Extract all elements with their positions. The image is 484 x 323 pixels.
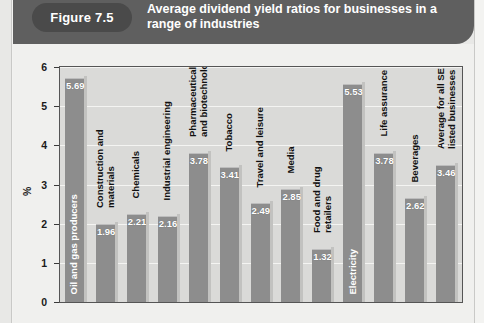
bar-group[interactable]: 5.53Electricity	[343, 67, 362, 302]
plot-inner: 5.69Oil and gas producers1.96Constructio…	[60, 67, 462, 302]
bar-category-label-line: retailers	[322, 167, 333, 234]
bar-category-label-line: Industrial engineering	[162, 101, 173, 200]
bar-value-label: 5.53	[344, 86, 363, 97]
bar-category-label-line: and biotechnology	[199, 67, 210, 137]
bar[interactable]	[189, 153, 208, 302]
bar-group[interactable]: 3.46Average for all SElisted businesses	[436, 67, 455, 302]
bar-category-label-line: Beverages	[409, 134, 420, 182]
bar[interactable]	[220, 167, 239, 302]
figure-number-badge: Figure 7.5	[32, 3, 132, 32]
bar-3d-edge	[424, 196, 427, 302]
bar-3d-edge	[455, 163, 458, 302]
bar[interactable]	[251, 203, 270, 302]
bar-group[interactable]: 1.96Construction andmaterials	[96, 67, 115, 302]
bar-category-label: Average for all SElisted businesses	[436, 69, 457, 150]
bar-group[interactable]: 2.16Industrial engineering	[158, 67, 177, 302]
bar-category-label: Beverages	[409, 134, 420, 182]
bar-value-label: 2.49	[252, 205, 271, 216]
figure-title: Average dividend yield ratios for busine…	[147, 2, 467, 32]
bar-category-label-line: Travel and leisure	[255, 107, 266, 187]
bar-3d-edge	[84, 76, 87, 302]
bar-group[interactable]: 3.41Tobacco	[220, 67, 239, 302]
y-axis-tick-label: 4	[13, 139, 47, 151]
bar-3d-edge	[300, 187, 303, 302]
bar-3d-edge	[270, 201, 273, 302]
bar-category-label: Travel and leisure	[255, 107, 266, 187]
bar-category-label-line: Average for all SE	[436, 69, 447, 150]
bar-group[interactable]: 2.85Media	[281, 67, 300, 302]
bar-category-label-line: Electricity	[347, 249, 358, 294]
bar-value-label: 3.78	[190, 155, 209, 166]
chart-card: % 0123456 5.69Oil and gas producers1.96C…	[13, 44, 474, 323]
bar-3d-edge	[393, 151, 396, 302]
bar-group[interactable]: 2.21Chemicals	[127, 67, 146, 302]
bar-category-label-line: listed businesses	[446, 69, 457, 150]
page-right-edge-line	[474, 0, 475, 323]
bar[interactable]	[436, 165, 455, 302]
bar-value-label: 1.96	[97, 226, 116, 237]
bar-value-label: 3.41	[221, 169, 240, 180]
bar-category-label: Tobacco	[224, 113, 235, 151]
y-axis-tick-label: 6	[13, 61, 47, 73]
bar-value-label: 2.21	[128, 216, 147, 227]
bar-3d-edge	[362, 82, 365, 302]
bar-category-label-line: Oil and gas producers	[69, 194, 80, 294]
bar-value-label: 3.78	[375, 155, 394, 166]
bar-group[interactable]: 3.78Life assurance	[374, 67, 393, 302]
y-axis-tick-label: 2	[13, 218, 47, 230]
bar-value-label: 3.46	[437, 167, 456, 178]
y-axis-tick-label: 0	[13, 296, 47, 308]
bar-category-label: Pharmaceuticalsand biotechnology	[188, 67, 209, 137]
bar-group[interactable]: 1.32Food and drugretailers	[312, 67, 331, 302]
bar-category-label: Life assurance	[378, 70, 389, 137]
bar-value-label: 2.16	[159, 218, 178, 229]
bar-group[interactable]: 2.62Beverages	[405, 67, 424, 302]
bar-value-label: 1.32	[313, 251, 332, 262]
figure-number-label: Figure 7.5	[50, 10, 113, 25]
figure-header: Figure 7.5 Average dividend yield ratios…	[13, 0, 474, 44]
bar-category-label: Electricity	[347, 249, 358, 294]
bar[interactable]	[127, 214, 146, 302]
bar-group[interactable]: 3.78Pharmaceuticalsand biotechnology	[189, 67, 208, 302]
bar-category-label: Construction andmaterials	[95, 130, 116, 209]
bar-category-label: Oil and gas producers	[69, 194, 80, 294]
bar-category-label-line: Food and drug	[312, 167, 323, 234]
y-axis-tick-label: 3	[13, 179, 47, 191]
y-axis-tick-label: 1	[13, 257, 47, 269]
bar-3d-edge	[239, 165, 242, 302]
bar-category-label: Media	[285, 146, 296, 173]
bar-category-label-line: materials	[106, 130, 117, 209]
bar-category-label-line: Chemicals	[131, 151, 142, 199]
bar[interactable]	[374, 153, 393, 302]
bar-value-label: 2.85	[282, 191, 301, 202]
bar-category-label-line: Tobacco	[224, 113, 235, 151]
bar-category-label-line: Media	[285, 146, 296, 173]
bar-category-label: Chemicals	[131, 151, 142, 199]
bar[interactable]	[281, 189, 300, 302]
bar-3d-edge	[208, 151, 211, 302]
y-axis-tick-label: 5	[13, 100, 47, 112]
bar-group[interactable]: 5.69Oil and gas producers	[65, 67, 84, 302]
bar-value-label: 2.62	[406, 200, 425, 211]
bar-value-label: 5.69	[66, 80, 85, 91]
bar[interactable]	[405, 198, 424, 302]
page-right-margin	[474, 0, 484, 323]
bar-category-label-line: Life assurance	[378, 70, 389, 137]
bar-category-label: Food and drugretailers	[312, 167, 333, 234]
plot-area: 5.69Oil and gas producers1.96Constructio…	[59, 66, 463, 303]
bar-category-label: Industrial engineering	[162, 101, 173, 200]
bar-group[interactable]: 2.49Travel and leisure	[251, 67, 270, 302]
